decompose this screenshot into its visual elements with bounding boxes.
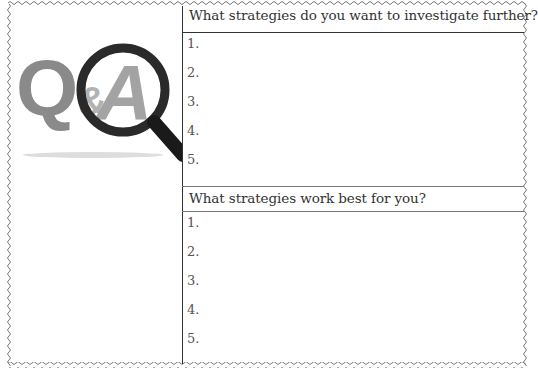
section-2-question: What strategies work best for you? — [189, 190, 426, 206]
section-2-item-3: 3. — [187, 273, 199, 288]
section-2-item-1: 1. — [187, 215, 199, 230]
section-1-item-1: 1. — [187, 36, 199, 51]
column-divider — [182, 6, 183, 364]
section-1-item-5: 5. — [187, 152, 199, 167]
section-2-header-rule — [182, 211, 524, 212]
magnifying-glass-icon — [81, 48, 183, 155]
section-2-item-5: 5. — [187, 331, 199, 346]
section-1-header-rule — [182, 32, 524, 33]
section-1-item-4: 4. — [187, 123, 199, 138]
section-divider — [182, 186, 524, 187]
section-1-question: What strategies do you want to investiga… — [189, 7, 538, 23]
section-2-item-4: 4. — [187, 302, 199, 317]
section-1-item-3: 3. — [187, 94, 199, 109]
section-1-item-2: 2. — [187, 65, 199, 80]
qa-logo: Q & A — [8, 20, 183, 170]
section-2-item-2: 2. — [187, 244, 199, 259]
logo-q: Q — [16, 43, 78, 132]
